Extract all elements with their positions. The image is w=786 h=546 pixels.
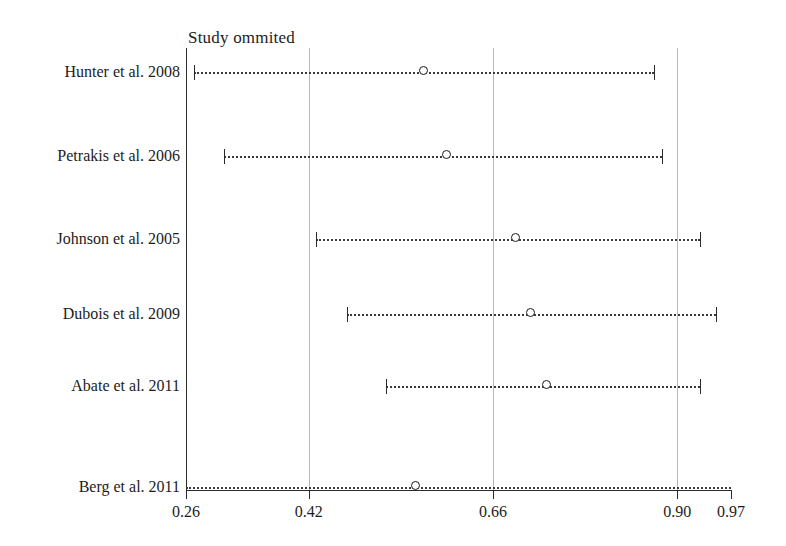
- study-row: Berg et al. 2011: [0, 476, 786, 500]
- confidence-interval-cap-low: [347, 307, 348, 322]
- confidence-interval-cap-high: [654, 65, 655, 80]
- confidence-interval-cap-low: [224, 149, 225, 164]
- forest-plot-figure: Study ommited 0.260.420.660.900.97 Hunte…: [0, 0, 786, 546]
- confidence-interval-cap-high: [700, 232, 701, 247]
- study-label: Petrakis et al. 2006: [57, 147, 180, 165]
- study-label: Johnson et al. 2005: [56, 230, 180, 248]
- study-row: Hunter et al. 2008: [0, 61, 786, 85]
- study-row: Abate et al. 2011: [0, 375, 786, 399]
- study-row: Petrakis et al. 2006: [0, 145, 786, 169]
- confidence-interval-line: [186, 487, 731, 489]
- point-estimate-marker: [442, 150, 451, 159]
- study-label: Berg et al. 2011: [79, 478, 180, 496]
- study-row: Dubois et al. 2009: [0, 303, 786, 327]
- confidence-interval-cap-high: [662, 149, 663, 164]
- confidence-interval-cap-low: [316, 232, 317, 247]
- confidence-interval-cap-high: [716, 307, 717, 322]
- study-row: Johnson et al. 2005: [0, 228, 786, 252]
- confidence-interval-cap-low: [386, 379, 387, 394]
- gridline: [493, 48, 494, 490]
- y-axis-line: [186, 48, 187, 491]
- study-label: Abate et al. 2011: [71, 377, 180, 395]
- point-estimate-marker: [511, 233, 520, 242]
- point-estimate-marker: [419, 66, 428, 75]
- confidence-interval-cap-low: [194, 65, 195, 80]
- study-label: Hunter et al. 2008: [64, 63, 180, 81]
- x-axis-tick-label: 0.66: [479, 503, 507, 521]
- x-axis-tick-label: 0.90: [663, 503, 691, 521]
- confidence-interval-line: [316, 239, 700, 241]
- gridline: [309, 48, 310, 490]
- x-axis-tick-label: 0.97: [717, 503, 745, 521]
- x-axis-tick-label: 0.26: [172, 503, 200, 521]
- confidence-interval-cap-high: [700, 379, 701, 394]
- chart-title: Study ommited: [188, 28, 295, 48]
- study-label: Dubois et al. 2009: [63, 305, 180, 323]
- gridline: [677, 48, 678, 490]
- x-axis-tick-label: 0.42: [295, 503, 323, 521]
- point-estimate-marker: [542, 380, 551, 389]
